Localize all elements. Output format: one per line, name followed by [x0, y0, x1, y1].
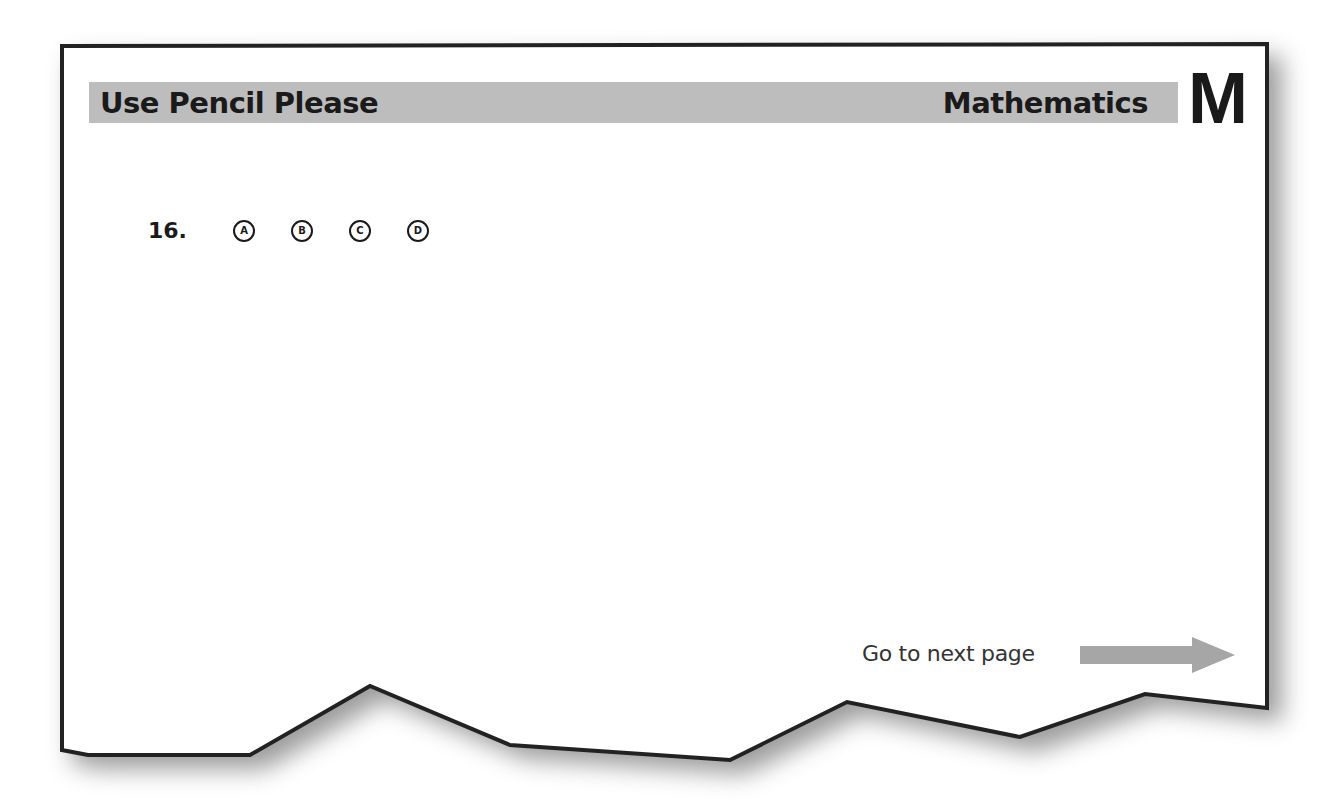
- subject-letter: M: [1188, 62, 1248, 134]
- answer-bubble-c[interactable]: C: [349, 220, 371, 242]
- next-page-label: Go to next page: [862, 641, 1035, 666]
- next-page-indicator: Go to next page: [862, 641, 1043, 666]
- answer-bubble-d[interactable]: D: [407, 220, 429, 242]
- subject-title: Mathematics: [943, 83, 1148, 123]
- question-number: 16.: [148, 218, 233, 243]
- answer-bubble-b[interactable]: B: [291, 220, 313, 242]
- question-row: 16. A B C D: [148, 218, 465, 243]
- header-instruction: Use Pencil Please: [100, 83, 378, 123]
- answer-bubble-a[interactable]: A: [233, 220, 255, 242]
